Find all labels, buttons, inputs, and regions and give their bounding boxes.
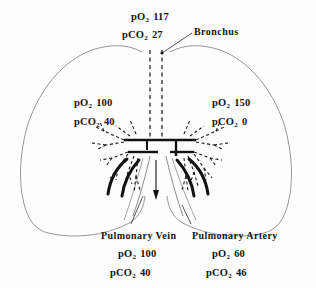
pulmonary-vein-pco2-label: pCO240 xyxy=(110,268,151,279)
lung-diagram xyxy=(0,0,316,288)
right-lung-po2-label: pO2150 xyxy=(212,98,250,109)
trachea-pco2-label: pCO227 xyxy=(122,30,163,41)
pulmonary-artery-leader-line xyxy=(182,205,191,224)
left-lung-po2-label: pO2100 xyxy=(74,98,112,109)
right-lung-pco2-label: pCO20 xyxy=(212,117,247,128)
left-bronchial-tree xyxy=(92,120,140,192)
diagram-page: pO2117 pCO227 Bronchus pO2100 pCO240 pO2… xyxy=(0,0,316,288)
pulmonary-vein-label: Pulmonary Vein xyxy=(101,231,176,241)
pulmonary-artery-po2-label: pO260 xyxy=(212,249,245,260)
trachea-po2-label: pO2117 xyxy=(131,12,169,23)
pulmonary-vein-po2-label: pO2100 xyxy=(118,249,156,260)
pulmonary-artery-label: Pulmonary Artery xyxy=(192,231,278,241)
left-lung-pco2-label: pCO240 xyxy=(74,117,115,128)
bronchus-leader-dot xyxy=(160,51,163,54)
bronchus-label: Bronchus xyxy=(194,27,239,37)
pulmonary-artery-pco2-label: pCO246 xyxy=(206,268,247,279)
bronchus-leader-line xyxy=(162,33,192,53)
alveolar-arrow-head xyxy=(153,190,159,200)
